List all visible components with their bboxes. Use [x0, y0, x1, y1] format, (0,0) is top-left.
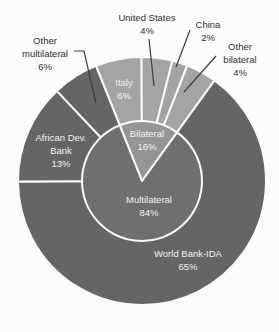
chart-figure: United States 4% China 2% Other bilatera… — [0, 0, 279, 332]
leader-line-china — [176, 30, 190, 67]
nested-pie-chart — [0, 0, 279, 332]
pie-wedges — [18, 57, 266, 305]
